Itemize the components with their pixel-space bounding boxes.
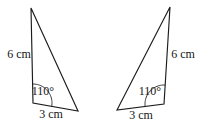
triangle-diagram: 110°6 cm3 cm110°6 cm3 cm: [0, 0, 216, 133]
left-triangle-side-label-bottom: 3 cm: [39, 107, 63, 121]
right-triangle-side-label-right: 6 cm: [171, 47, 195, 61]
right-triangle-angle-label: 110°: [139, 84, 162, 98]
left-triangle-angle-label: 110°: [32, 84, 55, 98]
right-triangle-side-label-bottom: 3 cm: [129, 108, 153, 122]
figure-container: 110°6 cm3 cm110°6 cm3 cm: [0, 0, 216, 133]
left-triangle-side-label-left: 6 cm: [7, 47, 31, 61]
